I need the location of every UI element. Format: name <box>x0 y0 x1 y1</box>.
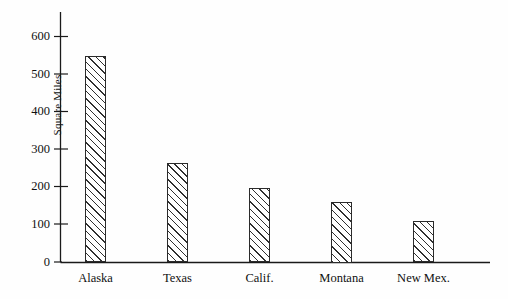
y-tick-label-500: 500 <box>16 68 50 81</box>
y-tick-label-300: 300 <box>16 143 50 156</box>
y-tick-label-200: 200 <box>16 180 50 193</box>
y-tick-label-400: 400 <box>16 105 50 118</box>
x-tick-label-calif: Calif. <box>224 272 295 285</box>
y-tick-label-100: 100 <box>16 218 50 231</box>
y-tick-label-600: 600 <box>16 30 50 43</box>
bar-texas <box>167 163 188 263</box>
bar-montana <box>331 202 352 263</box>
x-tick-label-alaska: Alaska <box>60 272 131 285</box>
bar-alaska <box>85 56 106 263</box>
bar-calif <box>249 188 270 262</box>
x-tick-label-new-mex: New Mex. <box>388 272 459 285</box>
plot-area: 600 500 400 300 200 100 0 Alaska Texas C… <box>0 0 508 299</box>
bar-chart: Square Miles 600 500 400 300 200 100 <box>0 0 508 299</box>
y-tick-label-0: 0 <box>16 256 50 269</box>
x-tick-label-texas: Texas <box>142 272 213 285</box>
x-tick-label-montana: Montana <box>306 272 377 285</box>
bar-new-mex <box>413 221 434 263</box>
